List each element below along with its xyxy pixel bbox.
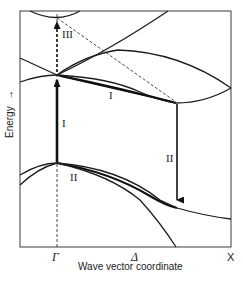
- upper-band-top-arc: [30, 11, 80, 18]
- valence-band-heavy: [57, 163, 177, 208]
- conduction-band-left-a: [20, 58, 57, 75]
- x-tick-X: X: [227, 251, 235, 263]
- plot-frame: [20, 11, 231, 247]
- transition-I-relaxation-arrow: [60, 76, 173, 102]
- conduction-band-left-b: [20, 75, 57, 82]
- label-III: III: [62, 28, 73, 40]
- x-tick-gamma: Γ: [51, 250, 60, 264]
- label-II-valence: II: [70, 171, 78, 183]
- second-conduction-band: [57, 50, 231, 88]
- y-axis-title-group: Energy →: [4, 90, 15, 138]
- side-valley-band-right: [176, 88, 231, 103]
- label-I-vertical: I: [62, 117, 66, 129]
- label-I-relaxation: I: [109, 89, 113, 101]
- valence-band-light: [57, 163, 231, 219]
- y-axis-arrow-icon: →: [4, 90, 15, 100]
- y-axis-title: Energy: [4, 106, 15, 138]
- x-axis-title: Wave vector coordinate: [78, 261, 183, 272]
- label-II-vertical: II: [166, 152, 174, 164]
- band-structure-figure: III I I II II Γ Δ X Wave vector coordina…: [0, 0, 243, 283]
